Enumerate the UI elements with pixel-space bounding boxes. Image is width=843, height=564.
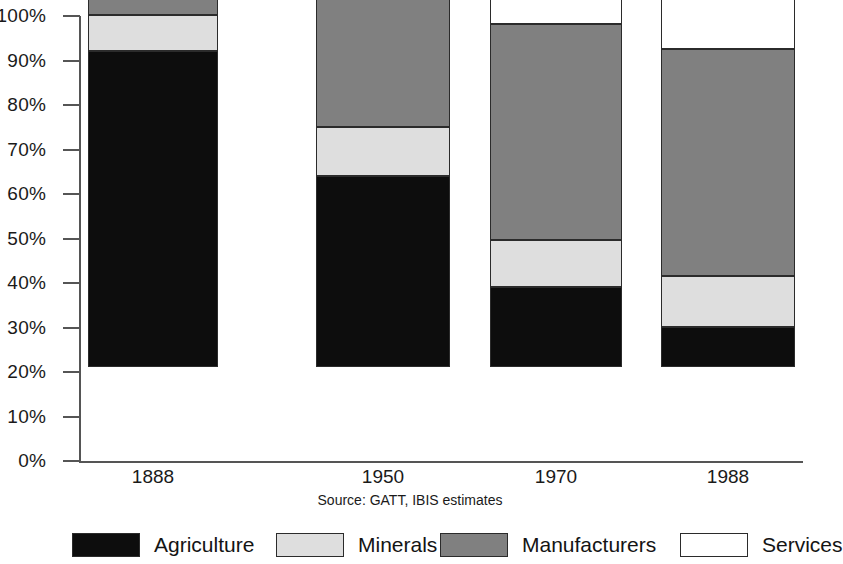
legend-item-services[interactable]: Services <box>680 530 843 560</box>
x-axis-tick-label-1970: 1970 <box>490 466 622 488</box>
bar-segment-agriculture-1988 <box>661 327 795 367</box>
legend-swatch-agriculture-icon <box>72 533 140 557</box>
chart-legend: AgricultureMineralsManufacturersServices <box>0 530 820 564</box>
bar-1950 <box>316 0 450 367</box>
bar-segment-minerals-1970 <box>490 240 622 287</box>
bar-segment-minerals-1950 <box>316 127 450 176</box>
bar-segment-agriculture-1888 <box>88 51 218 367</box>
legend-item-minerals[interactable]: Minerals <box>276 530 437 560</box>
bar-segment-minerals-1988 <box>661 276 795 327</box>
legend-label: Services <box>762 533 843 557</box>
source-note: Source: GATT, IBIS estimates <box>0 492 820 508</box>
plot-area: 1888195019701988 <box>0 0 820 470</box>
bar-segment-agriculture-1970 <box>490 287 622 367</box>
legend-swatch-services-icon <box>680 533 748 557</box>
bar-1970 <box>490 0 622 367</box>
legend-item-agriculture[interactable]: Agriculture <box>72 530 254 560</box>
x-axis-tick-label-1988: 1988 <box>661 466 795 488</box>
legend-swatch-minerals-icon <box>276 533 344 557</box>
bar-segment-manufacturers-1950 <box>316 0 450 127</box>
bar-1888 <box>88 0 218 367</box>
bar-1988 <box>661 0 795 367</box>
legend-swatch-manufacturers-icon <box>440 533 508 557</box>
bar-segment-manufacturers-1988 <box>661 49 795 276</box>
bar-segment-agriculture-1950 <box>316 176 450 367</box>
bar-segment-manufacturers-1888 <box>88 0 218 15</box>
bar-segment-minerals-1888 <box>88 15 218 51</box>
x-axis-tick-label-1888: 1888 <box>88 466 218 488</box>
bar-segment-services-1970 <box>490 0 622 24</box>
legend-label: Manufacturers <box>522 533 656 557</box>
bar-segment-manufacturers-1970 <box>490 24 622 240</box>
legend-label: Minerals <box>358 533 437 557</box>
legend-item-manufacturers[interactable]: Manufacturers <box>440 530 656 560</box>
bar-segment-services-1988 <box>661 0 795 49</box>
legend-label: Agriculture <box>154 533 254 557</box>
x-axis-tick-label-1950: 1950 <box>316 466 450 488</box>
